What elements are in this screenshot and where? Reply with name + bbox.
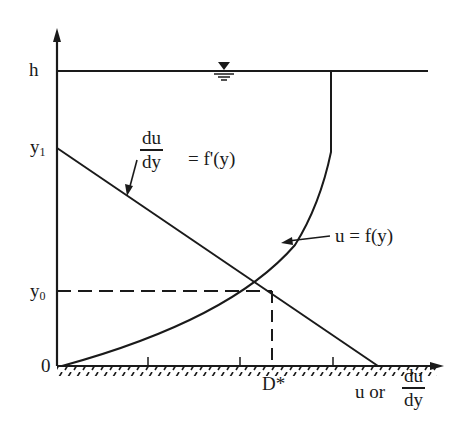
x-axis-label-fraction: du dy <box>402 366 425 410</box>
y0-symbol: y <box>30 280 40 301</box>
y-label-y0: y0 <box>30 281 46 302</box>
gradient-rhs-label: = f'(y) <box>188 149 235 168</box>
origin-label: 0 <box>41 356 51 375</box>
x-axis-ticks <box>148 357 333 366</box>
y1-subscript: 1 <box>40 145 46 159</box>
gradient-fraction: du dy <box>140 128 163 172</box>
x-axis-label-prefix: u or <box>355 382 385 401</box>
y-axis-arrow-icon <box>53 28 61 42</box>
x-label-denominator: dy <box>402 390 425 410</box>
y0-subscript: 0 <box>40 289 46 303</box>
velocity-leader-arrow <box>281 236 330 245</box>
gradient-line <box>57 148 378 366</box>
gradient-leader-arrow <box>125 160 137 196</box>
velocity-label: u = f(y) <box>335 226 393 245</box>
y0-dashed-guides <box>57 291 272 366</box>
y1-symbol: y <box>30 136 40 157</box>
y-label-h: h <box>29 60 39 79</box>
x-tick-label-dstar: D* <box>262 374 285 393</box>
x-label-numerator: du <box>402 366 425 386</box>
y-axis <box>53 28 61 366</box>
velocity-profile-curve <box>62 71 331 366</box>
gradient-denominator: dy <box>140 152 163 172</box>
channel-bed <box>57 362 444 376</box>
gradient-numerator: du <box>140 128 163 148</box>
y-label-y1: y1 <box>30 137 46 158</box>
